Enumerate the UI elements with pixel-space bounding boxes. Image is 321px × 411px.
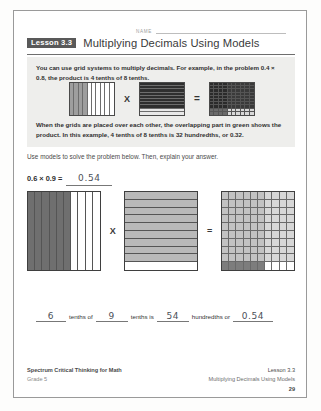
- page-title: Multiplying Decimals Using Models: [83, 37, 259, 49]
- footer-lesson-title: Multiplying Decimals Using Models: [209, 375, 295, 384]
- instruction-panel: You can use grid systems to multiply dec…: [27, 57, 295, 147]
- grid-cell: [272, 200, 279, 208]
- example-times-symbol: X: [124, 95, 130, 104]
- name-write-line[interactable]: [156, 32, 286, 34]
- grid-cell: [272, 223, 279, 231]
- grid-cell: [258, 239, 265, 247]
- footer-grade: Grade 5: [27, 375, 122, 384]
- grid-cell: [222, 223, 229, 231]
- worksheet-sheet: NAME Lesson 3.3 Multiplying Decimals Usi…: [13, 10, 307, 398]
- grid-row: [125, 262, 197, 270]
- grid-cell: [258, 215, 265, 223]
- grid-column: [110, 83, 114, 115]
- grid-cell: [250, 112, 254, 115]
- grid-cell: [280, 247, 287, 255]
- example-model-row: X =: [36, 81, 288, 117]
- grid-cell: [251, 215, 258, 223]
- footer-lesson: Lesson 3.3: [209, 366, 295, 375]
- answer-blank-tenths-1[interactable]: 6: [36, 311, 66, 322]
- grid-column: [64, 192, 71, 270]
- grid-cell: [272, 247, 279, 255]
- grid-cell: [244, 262, 251, 270]
- grid-column: [50, 192, 57, 270]
- answer-sentence: 6 tenths of 9 tenths is 54 hundredths or…: [36, 311, 288, 325]
- page-footer: Spectrum Critical Thinking for Math Grad…: [27, 366, 295, 392]
- grid-cell: [280, 231, 287, 239]
- answer-blank-tenths-2[interactable]: 9: [96, 311, 128, 322]
- answer-value-2: 9: [109, 311, 115, 321]
- work-times-symbol: X: [110, 226, 116, 236]
- grid-cell: [280, 208, 287, 216]
- grid-cell: [251, 247, 258, 255]
- grid-cell: [265, 262, 272, 270]
- grid-cell: [258, 192, 265, 200]
- grid-column: [78, 192, 85, 270]
- grid-cell: [272, 208, 279, 216]
- grid-cell: [258, 208, 265, 216]
- answer-value-4: 0.54: [242, 311, 264, 321]
- worksheet-page: NAME Lesson 3.3 Multiplying Decimals Usi…: [0, 0, 321, 411]
- problem-equation-row: 0.6 × 0.9 = 0.54: [27, 167, 112, 181]
- grid-cell: [265, 223, 272, 231]
- grid-cell: [251, 223, 258, 231]
- grid-cell: [244, 200, 251, 208]
- grid-cell: [222, 200, 229, 208]
- grid-cell: [280, 223, 287, 231]
- grid-cell: [258, 231, 265, 239]
- grid-cell: [229, 223, 236, 231]
- grid-cell: [251, 262, 258, 270]
- example-grid-columns: [69, 82, 115, 116]
- grid-cell: [265, 215, 272, 223]
- grid-cell: [229, 254, 236, 262]
- grid-cell: [265, 254, 272, 262]
- grid-cell: [244, 254, 251, 262]
- grid-cell: [229, 200, 236, 208]
- answer-label-2: tenths is: [131, 313, 154, 320]
- grid-row: [125, 215, 197, 223]
- answer-blank-decimal[interactable]: 0.54: [233, 311, 273, 322]
- problem-instruction: Use models to solve the problem below. T…: [27, 153, 295, 160]
- grid-cell: [222, 192, 229, 200]
- grid-cell: [265, 192, 272, 200]
- answer-blank-hundredths[interactable]: 54: [157, 311, 189, 322]
- lesson-badge: Lesson 3.3: [27, 38, 76, 49]
- grid-column: [28, 192, 35, 270]
- grid-cell: [222, 231, 229, 239]
- work-grid-product[interactable]: [221, 191, 295, 271]
- grid-cell: [222, 215, 229, 223]
- grid-cell: [287, 239, 294, 247]
- name-field-row: NAME: [136, 23, 286, 35]
- grid-row: [125, 200, 197, 208]
- grid-cell: [251, 239, 258, 247]
- grid-cell: [236, 215, 243, 223]
- grid-cell: [280, 192, 287, 200]
- grid-cell: [244, 208, 251, 216]
- answer-value-3: 54: [166, 311, 179, 321]
- grid-cell: [280, 200, 287, 208]
- grid-cell: [236, 208, 243, 216]
- grid-cell: [229, 247, 236, 255]
- grid-cell: [236, 254, 243, 262]
- problem-answer-blank[interactable]: 0.54: [66, 167, 112, 186]
- answer-label-3: hundredths or: [192, 313, 230, 320]
- grid-cell: [236, 247, 243, 255]
- grid-cell: [244, 231, 251, 239]
- grid-cell: [222, 208, 229, 216]
- grid-cell: [272, 254, 279, 262]
- footer-book-title: Spectrum Critical Thinking for Math: [27, 366, 122, 375]
- work-grid-rows[interactable]: [124, 191, 198, 271]
- example-grid-product: [209, 82, 255, 116]
- grid-cell: [236, 262, 243, 270]
- footer-page-number: 29: [209, 384, 295, 394]
- grid-cell: [258, 262, 265, 270]
- grid-cell: [272, 239, 279, 247]
- problem-expression: 0.6 × 0.9 =: [27, 174, 62, 183]
- grid-cell: [244, 239, 251, 247]
- example-grid-rows: [139, 82, 185, 116]
- grid-cell: [265, 231, 272, 239]
- grid-cell: [265, 208, 272, 216]
- grid-cell: [272, 215, 279, 223]
- grid-cell: [265, 239, 272, 247]
- grid-cell: [229, 192, 236, 200]
- work-grid-columns[interactable]: [27, 191, 101, 271]
